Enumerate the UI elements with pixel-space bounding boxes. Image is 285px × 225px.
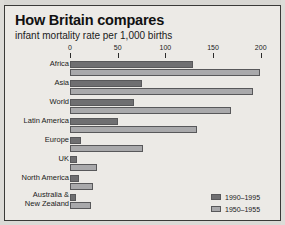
category-label: World — [0, 98, 69, 107]
bar-series-1950-1955 — [70, 164, 97, 171]
category-label: Australia &New Zealand — [0, 191, 69, 208]
legend-label: 1950–1955 — [225, 206, 260, 213]
bar-series-1950-1955 — [70, 202, 91, 209]
chart-row: Asia — [5, 79, 282, 97]
category-label: Africa — [0, 60, 69, 69]
category-label-line1: North America — [21, 173, 69, 182]
scan-edge-bottom — [0, 221, 285, 225]
category-label-line1: UK — [59, 154, 69, 163]
legend-label: 1990–1995 — [225, 194, 260, 201]
category-label: Europe — [0, 136, 69, 145]
x-tick-mark — [261, 53, 262, 58]
chart-row: Europe — [5, 136, 282, 154]
x-tick-label: 200 — [255, 44, 267, 51]
bar-series-1990-1995 — [70, 175, 79, 182]
chart-subtitle: infant mortality rate per 1,000 births — [15, 30, 172, 41]
legend-swatch-icon — [211, 194, 221, 200]
infant-mortality-chart-figure: How Britain compares infant mortality ra… — [0, 0, 285, 225]
chart-row: Africa — [5, 60, 282, 78]
x-tick-label: 100 — [160, 44, 172, 51]
x-tick-mark — [213, 53, 214, 58]
category-label-line1: World — [50, 97, 69, 106]
bar-series-1990-1995 — [70, 80, 142, 87]
chart-row: World — [5, 98, 282, 116]
chart-row: UK — [5, 155, 282, 173]
x-axis: 050100150200 — [5, 44, 282, 60]
bar-series-1950-1955 — [70, 88, 253, 95]
bar-series-1990-1995 — [70, 156, 77, 163]
x-tick-mark — [70, 53, 71, 58]
category-label-line1: Asia — [54, 78, 69, 87]
bar-series-1950-1955 — [70, 107, 231, 114]
category-label-line1: Africa — [50, 59, 69, 68]
x-tick-mark — [118, 53, 119, 58]
x-tick-mark — [165, 53, 166, 58]
chart-row: Latin America — [5, 117, 282, 135]
bar-series-1990-1995 — [70, 137, 81, 144]
bar-series-1990-1995 — [70, 99, 134, 106]
category-label-line1: Latin America — [24, 116, 69, 125]
chart-legend: 1990–19951950–1955 — [211, 192, 281, 216]
x-tick-label: 50 — [114, 44, 122, 51]
category-label: North America — [0, 174, 69, 183]
category-label-line2: New Zealand — [25, 199, 69, 208]
bar-series-1950-1955 — [70, 69, 260, 76]
bar-series-1950-1955 — [70, 126, 197, 133]
category-label: Asia — [0, 79, 69, 88]
category-label: UK — [0, 155, 69, 164]
legend-swatch-icon — [211, 206, 221, 212]
chart-title: How Britain compares — [15, 12, 164, 28]
category-label-line1: Europe — [45, 135, 69, 144]
bar-series-1990-1995 — [70, 194, 76, 201]
bar-series-1990-1995 — [70, 61, 193, 68]
bar-series-1990-1995 — [70, 118, 118, 125]
legend-item: 1990–1995 — [211, 192, 281, 202]
category-label: Latin America — [0, 117, 69, 126]
x-tick-label: 0 — [68, 44, 72, 51]
legend-item: 1950–1955 — [211, 204, 281, 214]
x-tick-label: 150 — [207, 44, 219, 51]
bar-series-1950-1955 — [70, 183, 93, 190]
chart-panel: How Britain compares infant mortality ra… — [4, 5, 281, 221]
bar-series-1950-1955 — [70, 145, 143, 152]
